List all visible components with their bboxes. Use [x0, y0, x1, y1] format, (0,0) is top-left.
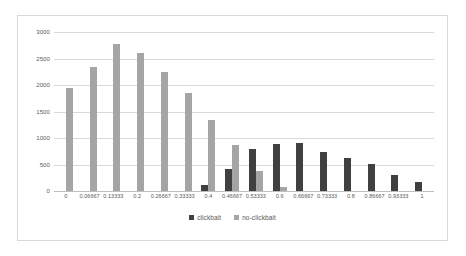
x-axis-tick-label: 0.8 — [339, 193, 363, 199]
bar-group — [78, 32, 102, 191]
x-axis-tick-label: 0.86667 — [363, 193, 387, 199]
x-axis-tick-label: 0.73333 — [315, 193, 339, 199]
chart-container: 050010001500200025003000 00.066670.13333… — [17, 15, 448, 241]
x-axis-labels: 00.066670.133330.20.266670.333330.40.466… — [54, 193, 434, 199]
y-axis-tick-label: 3000 — [36, 29, 50, 35]
bar-group — [363, 32, 387, 191]
bar-no-clickbait — [232, 145, 239, 191]
bar-no-clickbait — [208, 120, 215, 191]
legend-label: no-clickbait — [242, 214, 276, 221]
bar-group — [173, 32, 197, 191]
bar-no-clickbait — [256, 171, 263, 191]
bar-group — [125, 32, 149, 191]
y-axis-tick-label: 2000 — [36, 82, 50, 88]
bar-group — [387, 32, 411, 191]
bar-group — [292, 32, 316, 191]
bar-clickbait — [249, 149, 256, 191]
bar-clickbait — [415, 182, 422, 191]
legend-item-clickbait[interactable]: clickbait — [189, 214, 221, 221]
bar-no-clickbait — [66, 88, 73, 191]
bar-no-clickbait — [113, 44, 120, 191]
bar-group — [220, 32, 244, 191]
x-axis-tick-label: 0.4 — [197, 193, 221, 199]
x-axis-tick-label: 0.66667 — [292, 193, 316, 199]
bar-clickbait — [368, 164, 375, 191]
bar-clickbait — [296, 143, 303, 191]
legend-swatch-icon — [234, 215, 239, 220]
bar-group — [315, 32, 339, 191]
x-axis-tick-label: 0.06667 — [78, 193, 102, 199]
x-axis-tick-label: 0.26667 — [149, 193, 173, 199]
bar-clickbait — [344, 158, 351, 191]
bar-clickbait — [391, 175, 398, 191]
bar-group — [244, 32, 268, 191]
x-axis-tick-label: 0 — [54, 193, 78, 199]
bar-group — [268, 32, 292, 191]
y-axis-tick-label: 2500 — [36, 56, 50, 62]
bar-group — [410, 32, 434, 191]
bar-no-clickbait — [137, 53, 144, 191]
bar-group — [197, 32, 221, 191]
x-axis-tick-label: 0.33333 — [173, 193, 197, 199]
x-axis-line — [54, 191, 434, 192]
chart-legend: clickbaitno-clickbait — [18, 214, 447, 221]
plot-area: 050010001500200025003000 — [54, 32, 434, 191]
y-axis-tick-label: 0 — [47, 188, 50, 194]
bar-group — [54, 32, 78, 191]
bar-group — [102, 32, 126, 191]
x-axis-tick-label: 1 — [410, 193, 434, 199]
bar-no-clickbait — [161, 72, 168, 191]
y-axis-tick-label: 1000 — [36, 135, 50, 141]
bars-layer — [54, 32, 434, 191]
x-axis-tick-label: 0.13333 — [102, 193, 126, 199]
x-axis-tick-label: 0.6 — [268, 193, 292, 199]
legend-label: clickbait — [197, 214, 221, 221]
legend-item-no-clickbait[interactable]: no-clickbait — [234, 214, 276, 221]
bar-no-clickbait — [185, 93, 192, 191]
bar-group — [339, 32, 363, 191]
x-axis-tick-label: 0.53333 — [244, 193, 268, 199]
bar-group — [149, 32, 173, 191]
bar-clickbait — [320, 152, 327, 191]
y-axis-tick-label: 500 — [40, 162, 50, 168]
legend-swatch-icon — [189, 215, 194, 220]
x-axis-tick-label: 0.2 — [125, 193, 149, 199]
bar-no-clickbait — [90, 67, 97, 191]
bar-clickbait — [273, 144, 280, 191]
x-axis-tick-label: 0.46667 — [220, 193, 244, 199]
y-axis-tick-label: 1500 — [36, 109, 50, 115]
x-axis-tick-label: 0.93333 — [387, 193, 411, 199]
bar-clickbait — [225, 169, 232, 191]
